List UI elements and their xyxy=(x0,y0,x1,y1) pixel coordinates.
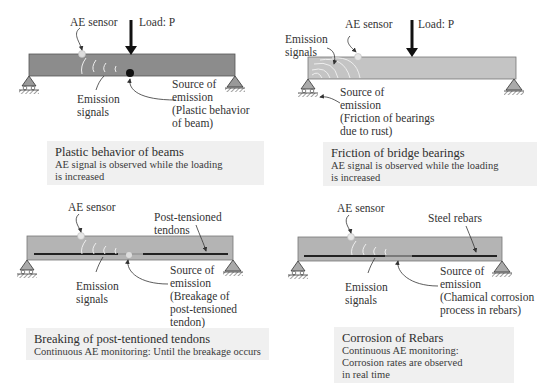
label-ae-sensor: AE sensor xyxy=(70,16,118,29)
label-post-tensioned-tendons: Post-tensioned tendons xyxy=(154,211,222,237)
caption-bearing-friction: Friction of bridge bearings AE signal is… xyxy=(323,142,537,186)
beam xyxy=(298,237,502,261)
ae-sensor-icon xyxy=(348,234,355,241)
label-emission-source: Source of emission (Breakage of post-ten… xyxy=(170,264,237,329)
caption-description: AE signal is observed while the loading … xyxy=(331,160,529,184)
caption-description: Continuous AE monitoring: Corrosion rate… xyxy=(342,345,506,381)
label-emission-signals: Emission signals xyxy=(77,93,120,119)
emission-source-icon xyxy=(126,69,134,77)
roller-support-icon xyxy=(19,76,39,94)
label-load: Load: P xyxy=(139,16,175,29)
ae-sensor-icon xyxy=(78,233,85,240)
roller-support-icon xyxy=(288,261,308,279)
caption-tendon-breakage: Breaking of post-tentioned tendons Conti… xyxy=(26,328,269,360)
roller-support-icon xyxy=(17,260,37,278)
label-ae-sensor: AE sensor xyxy=(345,18,393,31)
caption-description: Continuous AE monitoring: Until the brea… xyxy=(34,346,261,358)
label-ae-sensor: AE sensor xyxy=(337,202,385,215)
emission-source-icon xyxy=(126,252,132,258)
label-emission-signals: Emission signals xyxy=(345,281,388,307)
caption-rebar-corrosion: Corrosion of Rebars Continuous AE monito… xyxy=(334,327,514,383)
label-emission-source: Source of emission (Friction of bearings… xyxy=(340,86,435,138)
label-steel-rebars: Steel rebars xyxy=(428,212,482,225)
beam xyxy=(308,57,516,79)
label-emission-signals: Emission signals xyxy=(285,33,328,59)
caption-title: Breaking of post-tentioned tendons xyxy=(34,332,261,346)
ae-sensor-icon xyxy=(355,54,362,61)
label-ae-sensor: AE sensor xyxy=(68,201,116,214)
label-emission-signals: Emission signals xyxy=(76,280,119,306)
caption-plastic-behavior: Plastic behavior of beams AE signal is o… xyxy=(47,141,264,185)
label-load: Load: P xyxy=(418,18,454,31)
ae-sensor-icon xyxy=(79,51,86,58)
caption-title: Corrosion of Rebars xyxy=(342,331,506,345)
caption-description: AE signal is observed while the loading … xyxy=(55,159,256,183)
caption-title: Plastic behavior of beams xyxy=(55,145,256,159)
label-emission-source: Source of emission (Chamical corrosion p… xyxy=(440,265,534,317)
roller-support-icon xyxy=(298,79,318,97)
caption-title: Friction of bridge bearings xyxy=(331,146,529,160)
label-emission-source: Source of emission (Plastic behavior of … xyxy=(172,78,250,130)
pin-support-icon xyxy=(504,79,524,95)
